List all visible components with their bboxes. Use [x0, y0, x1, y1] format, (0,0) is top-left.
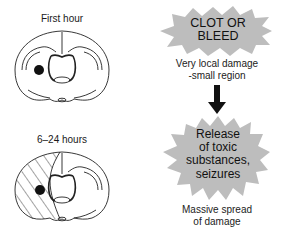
step1-caption-line2: -small region [167, 70, 267, 82]
time-label-first-hour: First hour [22, 13, 102, 24]
step2-title-line4: seizures [172, 168, 264, 181]
step2-caption: Massive spread of damage [167, 204, 267, 228]
lesion-spot-1 [34, 65, 44, 75]
step2-title-line3: substances, [172, 154, 264, 167]
step1-caption-line1: Very local damage [167, 58, 267, 70]
step2-caption-line2: of damage [167, 216, 267, 228]
step1-caption: Very local damage -small region [167, 58, 267, 82]
time-label-6-24-hours: 6–24 hours [22, 134, 102, 145]
step2-caption-line1: Massive spread [167, 204, 267, 216]
down-arrow-icon [208, 85, 226, 114]
step2-title: Release of toxic substances, seizures [172, 128, 264, 181]
lesion-spot-2 [35, 185, 45, 195]
brain-section-first-hour [15, 31, 109, 102]
step1-title: CLOT OR BLEED [172, 17, 264, 43]
step1-title-line2: BLEED [172, 30, 264, 43]
